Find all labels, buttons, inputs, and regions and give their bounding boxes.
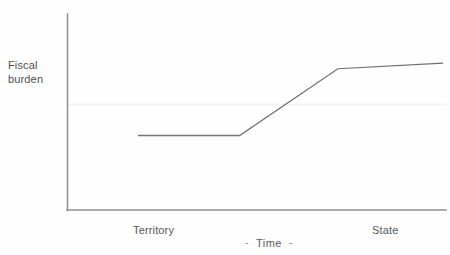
y-axis-label-line-2: burden — [8, 72, 43, 86]
x-tick-label-territory: Territory — [133, 223, 174, 237]
x-axis-dash-right: - — [282, 235, 300, 249]
x-tick-label-state: State — [372, 223, 398, 237]
y-axis-label: Fiscal burden — [8, 58, 43, 86]
y-axis-label-line-1: Fiscal — [8, 58, 43, 72]
x-axis-title: -Time- — [238, 236, 300, 250]
data-line-fiscal-burden — [138, 63, 443, 136]
x-axis-dash-left: - — [238, 235, 256, 249]
x-axis-title-text: Time — [256, 237, 282, 249]
plot-area — [0, 0, 450, 255]
chart-figure: Fiscal burden Territory State -Time- — [0, 0, 450, 255]
